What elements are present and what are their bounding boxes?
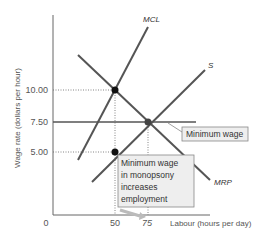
x-tick-75: 75: [142, 218, 153, 228]
min-wage-callout-text: Minimum wage: [186, 129, 243, 139]
employment-note-line-3: increases: [121, 182, 157, 192]
x-axis-label: Labour (hours per day): [170, 219, 252, 228]
y-tick-10: 10.00: [25, 85, 48, 95]
monopsony-minimum-wage-chart: MCL S MRP 10.00 7.50 5.00 0 50 75 Wage r…: [0, 0, 268, 240]
employment-note-line-2: in monopsony: [121, 170, 175, 180]
employment-note-line-1: Minimum wage: [121, 158, 178, 168]
mcl-curve: [78, 27, 148, 160]
y-tick-5: 5.00: [30, 147, 48, 157]
point-monopsony-equilibrium: [112, 87, 119, 94]
x-tick-0: 0: [43, 218, 48, 228]
mrp-label: MRP: [214, 178, 232, 187]
y-tick-7-50: 7.50: [30, 117, 48, 127]
y-axis-label: Wage rate (dollars per hour): [13, 68, 22, 168]
point-min-wage-equilibrium: [145, 119, 152, 126]
employment-note-line-4: employment: [121, 194, 168, 204]
x-tick-50: 50: [110, 218, 120, 228]
s-label: S: [208, 61, 214, 70]
point-monopsony-wage: [112, 149, 119, 156]
min-wage-callout-pointer: [168, 123, 182, 132]
mcl-label: MCL: [143, 15, 160, 24]
